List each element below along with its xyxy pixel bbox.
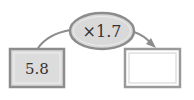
input-box: 5.8: [10, 49, 64, 87]
operator-label: ×1.7: [83, 22, 122, 41]
function-machine-diagram: ×1.7 5.8: [0, 0, 194, 100]
operator-node: ×1.7: [70, 13, 134, 49]
input-value: 5.8: [25, 60, 49, 78]
output-box[interactable]: [125, 49, 180, 87]
connector-line: [38, 30, 70, 48]
